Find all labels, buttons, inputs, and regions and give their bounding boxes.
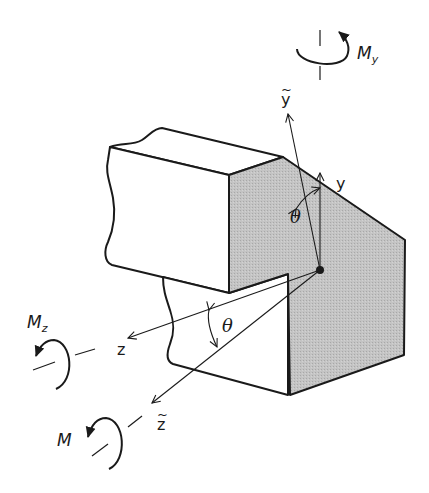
mz-dash-1 <box>75 349 95 355</box>
centroid-dot <box>316 266 324 274</box>
z-tilde-axis-label: ~z <box>157 417 165 433</box>
moment-m-curl-icon <box>88 418 122 469</box>
moment-mz-curl-icon <box>36 340 69 389</box>
m-dash-2 <box>92 444 108 456</box>
y-tilde-axis-label: ~y <box>281 92 290 108</box>
theta-top-label: θ <box>290 208 301 226</box>
my-subscript: y <box>372 53 379 66</box>
beam-diagram <box>0 0 429 493</box>
theta-bottom-label: θ <box>222 317 233 335</box>
my-base: M <box>357 43 372 63</box>
moment-my-label: My <box>357 45 378 62</box>
z-axis-label: z <box>117 342 125 358</box>
tilde-mark: ~ <box>157 408 165 421</box>
m-dash-1 <box>128 416 142 427</box>
y-axis-label: y <box>336 176 345 192</box>
moment-m-label: M <box>57 432 72 449</box>
tilde-mark: ~ <box>281 83 290 96</box>
mz-dash-2 <box>33 362 55 370</box>
moment-my-curl-icon <box>297 32 348 64</box>
moment-mz-label: Mz <box>27 314 47 331</box>
